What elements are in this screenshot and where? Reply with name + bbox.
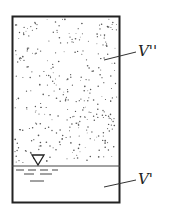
lower-region-label: V' [138, 172, 153, 187]
liquid-level-icon [32, 155, 44, 165]
upper-region-label: V'' [138, 44, 157, 59]
container-outline [13, 17, 120, 203]
vapor-stipple [14, 19, 117, 163]
liquid-surface-dashes [16, 170, 58, 181]
